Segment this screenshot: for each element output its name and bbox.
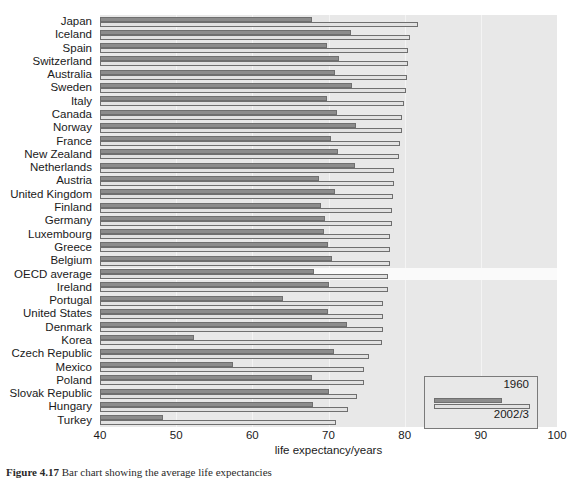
category-label: Germany: [45, 215, 92, 226]
bar-2002-3: [100, 247, 390, 252]
x-tick-label: 90: [474, 429, 487, 441]
legend-box: 1960 2002/3: [424, 376, 538, 429]
caption-figure-number: Figure 4.17: [6, 466, 62, 478]
category-label: Norway: [53, 122, 92, 133]
bar-2002-3: [100, 61, 408, 66]
category-label: Slovak Republic: [10, 388, 92, 399]
x-tick-label: 70: [322, 429, 335, 441]
bar-2002-3: [100, 48, 408, 53]
bar-2002-3: [100, 287, 388, 292]
x-tick-label: 50: [170, 429, 183, 441]
x-tick-label: 80: [398, 429, 411, 441]
bar-2002-3: [100, 301, 383, 306]
category-label: Greece: [54, 242, 92, 253]
bar-2002-3: [100, 75, 407, 80]
x-tick-label: 100: [547, 429, 566, 441]
x-axis-title: life expectancy/years: [100, 444, 557, 456]
bar-2002-3: [100, 101, 404, 106]
category-label: Belgium: [50, 255, 92, 266]
legend-label-2002: 2002/3: [494, 408, 529, 420]
legend-label-1960: 1960: [503, 378, 529, 390]
bar-2002-3: [100, 367, 364, 372]
x-tick-label: 60: [246, 429, 259, 441]
figure-container: JapanIcelandSpainSwitzerlandAustraliaSwe…: [0, 0, 571, 481]
category-label: Spain: [63, 43, 92, 54]
bar-2002-3: [100, 420, 336, 425]
bar-2002-3: [100, 261, 390, 266]
category-label: Ireland: [57, 282, 92, 293]
category-label: Czech Republic: [11, 348, 92, 359]
category-label: New Zealand: [24, 149, 92, 160]
caption-text: Bar chart showing the average life expec…: [62, 466, 272, 478]
category-label: Canada: [52, 109, 92, 120]
x-axis-ticks: 405060708090100: [100, 429, 557, 445]
category-label: France: [56, 136, 92, 147]
bar-2002-3: [100, 115, 402, 120]
x-tick-label: 40: [94, 429, 107, 441]
category-label: Denmark: [45, 322, 92, 333]
category-label: Mexico: [56, 362, 92, 373]
category-label: Japan: [61, 16, 92, 27]
bar-2002-3: [100, 88, 406, 93]
category-label: Poland: [56, 375, 92, 386]
bar-2002-3: [100, 221, 392, 226]
bar-2002-3: [100, 394, 357, 399]
bar-2002-3: [100, 208, 392, 213]
bar-2002-3: [100, 154, 399, 159]
bar-2002-3: [100, 274, 388, 279]
category-label: Turkey: [57, 415, 92, 426]
bar-2002-3: [100, 194, 393, 199]
category-label: Luxembourg: [28, 229, 92, 240]
bar-2002-3: [100, 314, 383, 319]
gridline: [481, 15, 482, 427]
bar-2002-3: [100, 181, 394, 186]
bar-2002-3: [100, 380, 364, 385]
bar-2002-3: [100, 407, 348, 412]
category-label: Iceland: [55, 29, 92, 40]
bar-2002-3: [100, 327, 383, 332]
category-label: Korea: [61, 335, 92, 346]
plot-area: [100, 15, 557, 427]
category-label: Italy: [71, 96, 92, 107]
category-label: Portugal: [49, 295, 92, 306]
bar-2002-3: [100, 35, 410, 40]
category-label: Sweden: [50, 82, 92, 93]
category-label: Hungary: [49, 401, 92, 412]
bar-2002-3: [100, 340, 382, 345]
category-label: OECD average: [14, 269, 92, 280]
bar-2002-3: [100, 234, 390, 239]
category-label: Netherlands: [30, 162, 92, 173]
bar-2002-3: [100, 22, 418, 27]
figure-caption: Figure 4.17 Bar chart showing the averag…: [6, 466, 546, 481]
bar-2002-3: [100, 141, 400, 146]
category-label: Switzerland: [33, 56, 92, 67]
legend-swatch-1960: [434, 398, 502, 403]
category-label: Austria: [56, 175, 92, 186]
category-label: Finland: [54, 202, 92, 213]
category-axis-labels: JapanIcelandSpainSwitzerlandAustraliaSwe…: [0, 15, 96, 427]
bar-2002-3: [100, 354, 369, 359]
category-label: United Kingdom: [10, 189, 92, 200]
category-label: Australia: [47, 69, 92, 80]
bar-2002-3: [100, 168, 394, 173]
bar-2002-3: [100, 128, 402, 133]
category-label: United States: [23, 308, 92, 319]
